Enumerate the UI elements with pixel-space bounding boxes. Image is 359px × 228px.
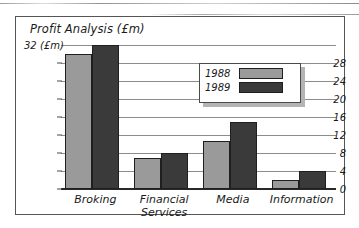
legend-box: 19881989: [199, 63, 301, 103]
y-axis-tick-mark: [57, 63, 62, 64]
legend-item: 1988: [205, 67, 295, 79]
y-axis-tick-mark: [57, 117, 62, 118]
legend-item: 1989: [205, 81, 295, 93]
y-axis-tick-mark: [57, 81, 62, 82]
bar: [134, 158, 161, 190]
legend-item-label: 1988: [205, 68, 235, 79]
y-axis-tick-label: 12: [305, 130, 346, 141]
scan-line-artifact-second: [150, 14, 359, 15]
bar: [92, 45, 119, 189]
plot-area: 048121620242832 (£m)BrokingFinancial Ser…: [16, 17, 346, 216]
bar: [65, 54, 92, 189]
bar: [299, 171, 326, 189]
y-axis-tick-label: 24: [305, 76, 346, 87]
y-axis-tick-label: 28: [305, 58, 346, 69]
y-axis-tick-label: 16: [305, 112, 346, 123]
bar: [203, 141, 230, 189]
y-axis-tick-label: 20: [305, 94, 346, 105]
y-axis-tick-mark: [57, 171, 62, 172]
bar: [272, 180, 299, 189]
legend-color-swatch: [239, 82, 283, 93]
y-axis-tick-mark: [57, 99, 62, 100]
y-axis-tick-label: 8: [305, 148, 346, 159]
y-axis-tick-label: 32 (£m): [24, 40, 64, 51]
chart-frame: Profit Analysis (£m) 048121620242832 (£m…: [15, 16, 345, 215]
legend-color-swatch: [239, 68, 283, 79]
legend-item-label: 1989: [205, 82, 235, 93]
y-axis-tick-mark: [57, 135, 62, 136]
y-axis-tick-mark: [57, 189, 62, 190]
x-axis-category-label: Information: [259, 194, 344, 207]
scan-line-artifact-top: [0, 3, 359, 4]
y-axis-tick-mark: [57, 153, 62, 154]
bar: [230, 122, 257, 190]
bar: [161, 153, 188, 189]
